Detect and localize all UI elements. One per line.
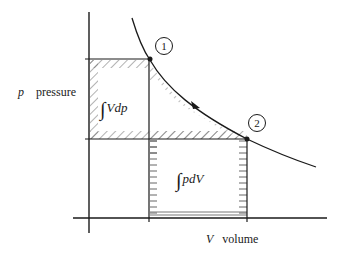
arrow-icon xyxy=(191,101,200,109)
state-label-1: 1 xyxy=(155,37,173,55)
x-axis-label: V volume xyxy=(206,233,258,245)
y-axis-label: p pressure xyxy=(18,86,76,98)
vdp-integral-label: ∫Vdp xyxy=(100,99,127,119)
state-point-1 xyxy=(148,57,153,62)
y-axis-symbol: p xyxy=(18,85,24,99)
x-axis-text: volume xyxy=(222,232,258,246)
y-axis-text: pressure xyxy=(36,85,76,99)
x-axis-symbol: V xyxy=(206,232,213,246)
state-point-2 xyxy=(245,137,250,142)
pdv-integral-label: ∫pdV xyxy=(176,170,203,190)
state-label-2: 2 xyxy=(248,114,266,132)
pv-diagram xyxy=(0,0,341,256)
